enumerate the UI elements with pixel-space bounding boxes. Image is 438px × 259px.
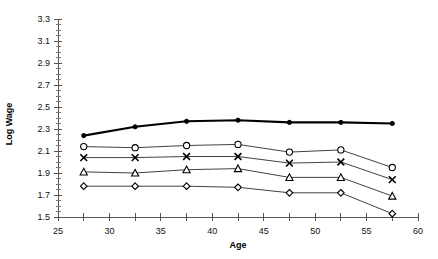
marker-diamond [183,183,190,190]
data-point-series-4-6 [389,193,396,200]
x-axis-tick-label: 50 [310,226,320,236]
data-point-series-2-0 [81,144,87,150]
data-point-series-1-5 [339,120,343,124]
y-axis-tick-label: 2.1 [37,146,50,156]
data-point-series-1-2 [184,119,188,123]
x-axis-tick-label: 55 [362,226,372,236]
data-point-series-1-1 [133,125,137,129]
data-point-series-5-3 [235,184,242,191]
marker-filled-circle [390,121,394,125]
series-diamond [80,183,395,217]
x-axis-tick-label: 30 [104,226,114,236]
data-point-series-2-1 [132,145,138,151]
data-point-series-2-4 [286,149,292,155]
data-point-series-2-5 [338,147,344,153]
y-axis-tick-label: 3.1 [37,36,50,46]
marker-filled-circle [133,125,137,129]
y-axis-tick-label: 1.9 [37,168,50,178]
marker-triangle [389,193,396,200]
data-point-series-1-6 [390,121,394,125]
y-axis-tick-label: 2.5 [37,102,50,112]
marker-open-circle [338,147,344,153]
log-wage-age-line-chart: 1.51.71.92.12.32.52.72.93.13.32530354045… [0,0,438,259]
data-point-series-3-6 [389,176,396,183]
y-axis-tick-label: 3.3 [37,14,50,24]
y-axis-tick-label: 1.5 [37,212,50,222]
x-axis-title: Age [229,240,246,250]
data-point-series-1-0 [82,134,86,138]
marker-diamond [132,183,139,190]
marker-filled-circle [287,120,291,124]
y-axis-title: Log Wage [4,103,14,146]
data-point-series-2-3 [235,141,241,147]
data-point-series-5-6 [389,210,396,217]
marker-diamond [338,190,345,197]
data-point-series-5-2 [183,183,190,190]
marker-open-circle [235,141,241,147]
data-point-series-1-3 [236,118,240,122]
marker-filled-circle [184,119,188,123]
x-axis-tick-label: 45 [259,226,269,236]
data-point-series-5-1 [132,183,139,190]
marker-open-circle [81,144,87,150]
series-triangle [80,165,396,199]
data-point-series-2-6 [389,164,395,170]
data-point-series-1-4 [287,120,291,124]
marker-filled-circle [339,120,343,124]
y-axis-tick-label: 2.9 [37,58,50,68]
x-axis-tick-label: 35 [156,226,166,236]
x-axis-tick-label: 25 [53,226,63,236]
marker-filled-circle [236,118,240,122]
marker-filled-circle [82,134,86,138]
marker-open-circle [132,145,138,151]
series-filled-circle [82,118,395,138]
marker-open-circle [286,149,292,155]
marker-diamond [235,184,242,191]
marker-diamond [286,190,293,197]
series-line-series-4 [84,169,393,197]
marker-open-circle [389,164,395,170]
data-point-series-5-5 [338,190,345,197]
y-axis-tick-label: 1.7 [37,190,50,200]
data-point-series-5-0 [80,183,87,190]
marker-diamond [389,210,396,217]
data-point-series-5-4 [286,190,293,197]
y-axis-tick-label: 2.3 [37,124,50,134]
marker-open-circle [183,142,189,148]
y-axis-tick-label: 2.7 [37,80,50,90]
marker-diamond [80,183,87,190]
x-axis-tick-label: 40 [207,226,217,236]
data-point-series-2-2 [183,142,189,148]
x-axis-tick-label: 60 [413,226,423,236]
chart-container: 1.51.71.92.12.32.52.72.93.13.32530354045… [0,0,438,259]
